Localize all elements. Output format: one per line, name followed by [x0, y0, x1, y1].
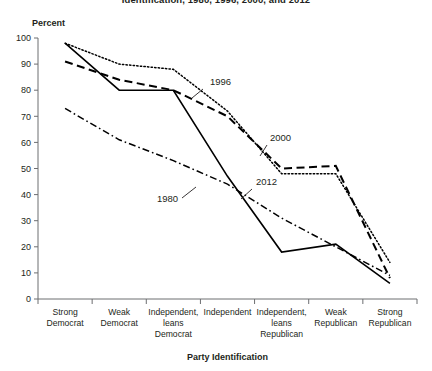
x-axis-tick-label: Republican: [368, 318, 411, 328]
x-axis-tick-label: Independent,: [257, 307, 307, 317]
x-axis-tick-label: Independent,: [148, 307, 198, 317]
x-axis-tick-label: leans: [163, 318, 184, 328]
party-identification-line-chart: Identification, 1980, 1996, 2000, and 20…: [0, 0, 432, 371]
series-label-1980: 1980: [157, 193, 178, 204]
y-axis: 0102030405060708090100: [16, 33, 38, 304]
x-axis-tick-label: leans: [271, 318, 292, 328]
series-line-2000: [65, 61, 390, 278]
y-axis-tick-label: 80: [21, 85, 31, 95]
y-axis-tick-label: 40: [21, 190, 31, 200]
y-axis-tick-label: 50: [21, 164, 31, 174]
annotation-leader-line: [241, 189, 252, 199]
y-axis-tick-label: 20: [21, 242, 31, 252]
y-axis-tick-label: 100: [16, 33, 31, 43]
y-axis-tick-label: 90: [21, 59, 31, 69]
y-axis-tick-label: 30: [21, 216, 31, 226]
series-label-1996: 1996: [210, 76, 231, 87]
y-axis-tick-label: 10: [21, 268, 31, 278]
annotation-leader-line: [192, 89, 203, 98]
y-axis-tick-label: 70: [21, 112, 31, 122]
y-axis-tick-label: 60: [21, 138, 31, 148]
x-axis-tick-label: Democrat: [155, 329, 193, 339]
series-label-2012: 2012: [256, 176, 277, 187]
x-axis-tick-label: Republican: [314, 318, 357, 328]
x-axis-tick-label: Independent: [204, 307, 252, 317]
x-axis-tick-label: Democrat: [46, 318, 84, 328]
x-axis: StrongDemocratWeakDemocratIndependent,le…: [38, 299, 417, 339]
x-axis-tick-label: Weak: [108, 307, 131, 317]
y-axis-tick-label: 0: [26, 294, 31, 304]
x-axis-tick-label: Democrat: [101, 318, 139, 328]
x-axis-tick-label: Strong: [377, 307, 403, 317]
series-line-1980: [65, 108, 390, 275]
x-axis-tick-label: Republican: [260, 329, 303, 339]
y-axis-title: Percent: [32, 18, 65, 28]
x-axis-tick-label: Weak: [325, 307, 348, 317]
x-axis-title: Party Identification: [187, 352, 268, 362]
series-label-2000: 2000: [270, 132, 291, 143]
annotation-leader-line: [182, 187, 196, 198]
chart-title: Identification, 1980, 1996, 2000, and 20…: [0, 0, 432, 5]
x-axis-tick-label: Strong: [52, 307, 78, 317]
chart-canvas: 0102030405060708090100 StrongDemocratWea…: [0, 0, 432, 371]
